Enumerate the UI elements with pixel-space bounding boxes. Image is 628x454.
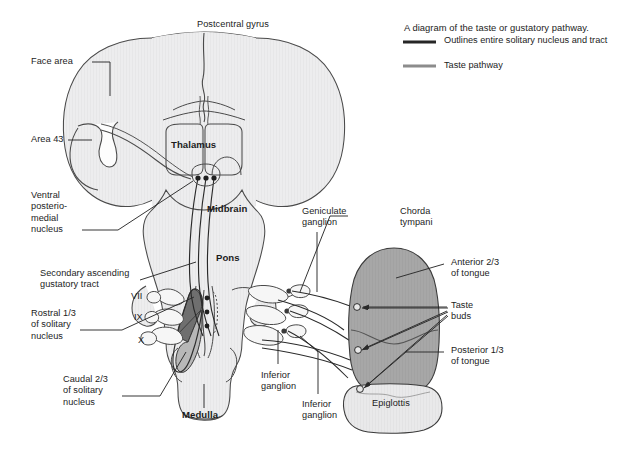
label-inferior-ganglion-x: Inferior ganglion <box>302 399 337 422</box>
taste-bud-posterior <box>355 347 362 354</box>
label-taste-buds: Taste buds <box>451 300 473 323</box>
figure-caption: A diagram of the taste or gustatory path… <box>404 22 589 33</box>
label-pons: Pons <box>216 252 240 263</box>
label-ventral-posteriomedial-nucleus: Ventral posterio- medial nucleus <box>31 190 67 236</box>
label-face-area: Face area <box>31 56 73 67</box>
nerve-bundle-envelope-3 <box>262 348 352 370</box>
label-midbrain: Midbrain <box>207 203 247 214</box>
geniculate-ganglion <box>248 285 288 303</box>
inferior-ganglion-x <box>244 326 283 346</box>
label-inferior-ganglion-ix: Inferior ganglion <box>261 370 296 393</box>
legend-item-taste-label: Taste pathway <box>444 60 622 72</box>
label-chorda-tympani: Chorda tympani <box>400 206 433 229</box>
left-hemisphere <box>63 38 166 206</box>
leader-inf-ganglion-x <box>300 336 318 394</box>
taste-bud-anterior <box>354 304 361 311</box>
label-anterior-tongue: Anterior 2/3 of tongue <box>451 257 499 280</box>
legend-swatches <box>403 42 436 66</box>
label-rostral-solitary-nucleus: Rostral 1/3 of solitary nucleus <box>31 308 76 342</box>
right-hemisphere <box>242 38 345 206</box>
label-secondary-ascending-gustatory-tract: Secondary ascending gustatory tract <box>40 268 129 291</box>
nerve-bundle-envelope <box>278 300 344 330</box>
legend-item-solitary-label: Outlines entire solitary nucleus and tra… <box>444 35 622 47</box>
label-caudal-solitary-nucleus: Caudal 2/3 of solitary nucleus <box>63 374 108 408</box>
cranial-nerve-roots-left <box>141 289 184 345</box>
nerve-vii-root-b <box>147 291 161 303</box>
diagram-canvas: Postcentral gyrus Face area Area 43 Vent… <box>0 0 628 454</box>
label-thalamus: Thalamus <box>171 139 216 150</box>
label-area-43: Area 43 <box>31 134 64 145</box>
label-nerve-vii: VII <box>131 291 142 302</box>
label-nerve-x: X <box>138 335 144 346</box>
taste-bud-epiglottic <box>357 386 364 393</box>
label-postcentral-gyrus: Postcentral gyrus <box>197 19 269 30</box>
nerve-ix-root-b <box>145 311 159 323</box>
label-geniculate-ganglion: Geniculate ganglion <box>302 206 346 229</box>
label-medulla: Medulla <box>182 409 218 420</box>
label-nerve-ix: IX <box>134 312 143 323</box>
label-epiglottis: Epiglottis <box>372 398 410 409</box>
label-posterior-tongue: Posterior 1/3 of tongue <box>451 345 504 368</box>
inferior-ganglion-x-dot <box>281 328 286 333</box>
